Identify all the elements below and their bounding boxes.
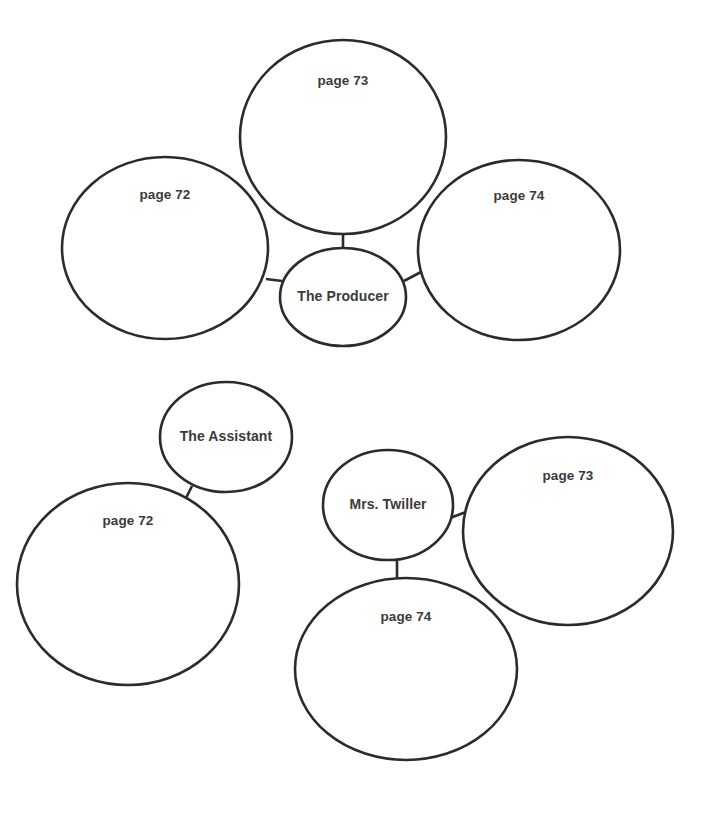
node-label: page 72 <box>103 513 154 528</box>
node-the-producer[interactable]: The Producer <box>280 248 406 346</box>
node-page-74-twiller[interactable]: page 74 <box>295 578 517 760</box>
cluster-mrs-twiller: page 73 page 74 Mrs. Twiller <box>295 437 673 760</box>
cluster-the-assistant: page 72 The Assistant <box>17 382 292 685</box>
connector-producer-to-page72 <box>266 279 282 281</box>
node-page-73-twiller[interactable]: page 73 <box>463 437 673 625</box>
node-label: page 74 <box>381 609 432 624</box>
node-shape[interactable] <box>62 157 268 339</box>
node-label: page 73 <box>543 468 594 483</box>
concept-map-svg: page 73 page 72 page 74 The Producer pag… <box>0 0 703 817</box>
node-label: page 74 <box>494 188 545 203</box>
node-label: page 73 <box>318 73 369 88</box>
node-label: The Assistant <box>180 428 273 444</box>
concept-map-canvas: page 73 page 72 page 74 The Producer pag… <box>0 0 703 817</box>
node-page-73-producer[interactable]: page 73 <box>240 40 446 234</box>
node-mrs-twiller[interactable]: Mrs. Twiller <box>323 450 453 560</box>
node-shape[interactable] <box>295 578 517 760</box>
cluster-the-producer: page 73 page 72 page 74 The Producer <box>62 40 620 346</box>
node-label: page 72 <box>140 187 191 202</box>
node-label: Mrs. Twiller <box>349 496 427 512</box>
node-the-assistant[interactable]: The Assistant <box>160 382 292 492</box>
node-page-74-producer[interactable]: page 74 <box>418 160 620 340</box>
connector-producer-to-page74 <box>404 272 421 281</box>
node-label: The Producer <box>297 288 389 304</box>
node-shape[interactable] <box>463 437 673 625</box>
node-shape[interactable] <box>240 40 446 234</box>
node-page-72-assistant[interactable]: page 72 <box>17 483 239 685</box>
node-page-72-producer[interactable]: page 72 <box>62 157 268 339</box>
